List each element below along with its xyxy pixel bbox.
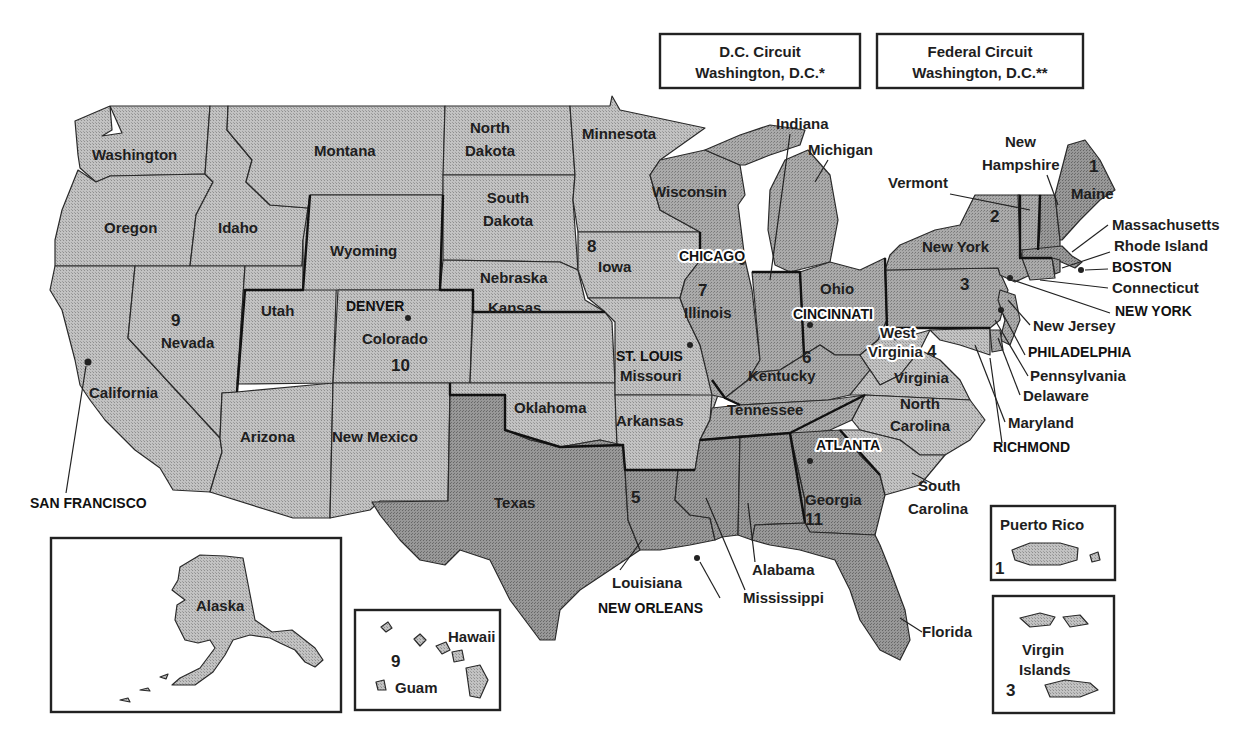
label-connecticut: Connecticut bbox=[1112, 279, 1199, 296]
label-south-dakota-1: South bbox=[487, 189, 530, 206]
label-new-hampshire-1: New bbox=[1005, 133, 1036, 150]
label-alaska: Alaska bbox=[196, 597, 245, 614]
alaska-inset: Alaska bbox=[51, 538, 341, 712]
circuit-number-2: 2 bbox=[990, 207, 999, 226]
label-virgin-islands-2: Islands bbox=[1019, 661, 1071, 678]
label-utah: Utah bbox=[261, 302, 294, 319]
federal-circuit-box: Federal Circuit Washington, D.C.** bbox=[877, 34, 1083, 88]
label-west-virginia-2: Virginia bbox=[868, 343, 923, 360]
city-san-francisco: SAN FRANCISCO bbox=[30, 495, 147, 511]
label-south-carolina-2: Carolina bbox=[908, 500, 969, 517]
label-kansas: Kansas bbox=[488, 299, 541, 316]
city-st-louis: ST. LOUIS bbox=[616, 348, 683, 364]
circuit-map: D.C. Circuit Washington, D.C.* Federal C… bbox=[0, 0, 1243, 741]
label-wisconsin: Wisconsin bbox=[652, 183, 727, 200]
label-nevada: Nevada bbox=[161, 334, 215, 351]
circuit-number-11: 11 bbox=[805, 510, 823, 529]
label-illinois: Illinois bbox=[684, 304, 732, 321]
hawaii-guam-inset: Hawaii 9 Guam bbox=[355, 610, 500, 710]
label-oregon: Oregon bbox=[104, 219, 157, 236]
label-georgia: Georgia bbox=[805, 491, 862, 508]
new-york-dot bbox=[1007, 275, 1013, 281]
label-mississippi: Mississippi bbox=[743, 589, 824, 606]
state-north-dakota bbox=[443, 106, 575, 175]
label-nebraska: Nebraska bbox=[480, 269, 548, 286]
dc-circuit-location: Washington, D.C.* bbox=[695, 64, 825, 81]
circuit-number-3-inset: 3 bbox=[1006, 681, 1015, 700]
label-new-hampshire-2: Hampshire bbox=[982, 156, 1060, 173]
label-delaware: Delaware bbox=[1023, 387, 1089, 404]
state-vermont bbox=[1018, 195, 1040, 250]
label-north-dakota-1: North bbox=[470, 119, 510, 136]
circuit-number-5: 5 bbox=[631, 488, 640, 507]
label-south-dakota-2: Dakota bbox=[483, 212, 534, 229]
atlanta-dot bbox=[807, 458, 813, 464]
label-puerto-rico: Puerto Rico bbox=[1000, 516, 1084, 533]
circuit-number-10: 10 bbox=[391, 356, 410, 375]
circuit-number-3: 3 bbox=[960, 275, 969, 294]
label-tennessee: Tennessee bbox=[727, 401, 803, 418]
st-louis-dot bbox=[687, 342, 693, 348]
circuit-number-9-inset: 9 bbox=[391, 652, 400, 671]
label-kentucky: Kentucky bbox=[748, 367, 816, 384]
circuit-number-4: 4 bbox=[927, 342, 937, 361]
label-virgin-islands-1: Virgin bbox=[1022, 641, 1064, 658]
label-minnesota: Minnesota bbox=[582, 125, 657, 142]
circuit-number-1: 1 bbox=[1089, 157, 1098, 176]
state-oregon bbox=[55, 170, 213, 266]
dc-circuit-title: D.C. Circuit bbox=[719, 43, 801, 60]
label-colorado: Colorado bbox=[362, 330, 428, 347]
city-chicago: CHICAGO bbox=[679, 248, 745, 264]
label-montana: Montana bbox=[314, 142, 376, 159]
new-orleans-dot bbox=[694, 555, 700, 561]
state-delaware bbox=[990, 330, 1003, 352]
circuit-number-1-inset: 1 bbox=[995, 559, 1004, 578]
label-rhode-island: Rhode Island bbox=[1114, 237, 1208, 254]
label-iowa: Iowa bbox=[598, 258, 632, 275]
label-west-virginia-1: West bbox=[880, 324, 916, 341]
city-boston: BOSTON bbox=[1112, 259, 1172, 275]
circuit-number-8: 8 bbox=[587, 237, 596, 256]
label-north-carolina-2: Carolina bbox=[890, 417, 951, 434]
label-ohio: Ohio bbox=[820, 280, 854, 297]
state-kansas bbox=[470, 312, 615, 383]
city-atlanta: ATLANTA bbox=[816, 437, 880, 453]
label-alabama: Alabama bbox=[752, 561, 815, 578]
boston-dot bbox=[1078, 267, 1084, 273]
label-maryland: Maryland bbox=[1008, 414, 1074, 431]
label-virginia: Virginia bbox=[894, 369, 949, 386]
label-arkansas: Arkansas bbox=[616, 412, 684, 429]
label-north-dakota-2: Dakota bbox=[465, 142, 516, 159]
state-new-mexico bbox=[330, 383, 450, 518]
denver-dot bbox=[405, 315, 411, 321]
city-cincinnati: CINCINNATI bbox=[793, 306, 873, 322]
label-maine: Maine bbox=[1071, 185, 1114, 202]
label-michigan: Michigan bbox=[808, 141, 873, 158]
label-missouri: Missouri bbox=[620, 367, 682, 384]
label-new-mexico: New Mexico bbox=[332, 428, 418, 445]
label-hawaii: Hawaii bbox=[448, 628, 496, 645]
virgin-islands-inset: Virgin Islands 3 bbox=[993, 596, 1114, 713]
label-new-york: New York bbox=[922, 238, 990, 255]
label-wyoming: Wyoming bbox=[330, 242, 397, 259]
cincinnati-dot bbox=[807, 322, 813, 328]
label-guam: Guam bbox=[395, 679, 438, 696]
circuit-number-6: 6 bbox=[802, 348, 811, 367]
label-washington: Washington bbox=[92, 146, 177, 163]
label-vermont: Vermont bbox=[888, 174, 948, 191]
circuit-number-9: 9 bbox=[171, 311, 180, 330]
federal-circuit-title: Federal Circuit bbox=[927, 43, 1032, 60]
federal-circuit-location: Washington, D.C.** bbox=[912, 64, 1047, 81]
san-francisco-dot bbox=[85, 359, 92, 366]
label-arizona: Arizona bbox=[240, 428, 296, 445]
city-philadelphia: PHILADELPHIA bbox=[1028, 344, 1131, 360]
dc-circuit-box: D.C. Circuit Washington, D.C.* bbox=[660, 34, 860, 88]
city-denver: DENVER bbox=[346, 298, 404, 314]
city-new-orleans: NEW ORLEANS bbox=[598, 600, 703, 616]
philadelphia-dot bbox=[998, 307, 1004, 313]
label-indiana: Indiana bbox=[776, 115, 829, 132]
label-massachusetts: Massachusetts bbox=[1112, 216, 1220, 233]
circuit-number-7: 7 bbox=[698, 281, 707, 300]
city-new-york: NEW YORK bbox=[1115, 303, 1192, 319]
label-california: California bbox=[89, 384, 159, 401]
